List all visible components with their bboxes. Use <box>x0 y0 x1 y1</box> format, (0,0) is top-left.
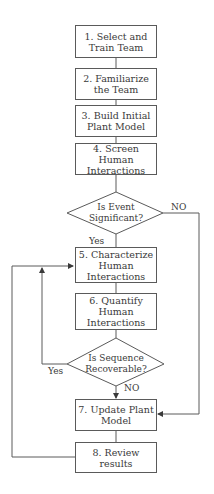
step-1-label: 1. Select and Train Team <box>78 31 154 53</box>
edge-d1-s7 <box>158 213 199 414</box>
step-8-label: 8. Review results <box>78 447 154 469</box>
edge-d2-s5 <box>42 268 67 364</box>
step-4-label: 4. Screen Human Interactions <box>78 143 154 176</box>
flowchart: 1. Select and Train Team 2. Familiarize … <box>0 0 214 494</box>
step-7-label: 7. Update Plant Model <box>78 404 154 426</box>
step-6-line-2: Human <box>87 306 145 317</box>
step-5-characterize-human-interactions: 5. Characterize Human Interactions <box>75 247 157 283</box>
step-3-build-initial-plant-model: 3. Build Initial Plant Model <box>75 105 157 137</box>
edge-s8-s5 <box>12 266 75 457</box>
step-4-screen-human-interactions: 4. Screen Human Interactions <box>75 143 157 175</box>
decision-2-text: Is Sequence Recoverable? <box>82 353 150 375</box>
decision-1-text: Is Event Significant? <box>82 202 150 224</box>
decision-2-line-2: Recoverable? <box>82 364 150 375</box>
step-6-line-3: Interactions <box>87 317 145 328</box>
step-7-update-plant-model: 7. Update Plant Model <box>75 399 157 431</box>
step-6-line-1: 6. Quantify <box>87 295 145 306</box>
step-8-review-results: 8. Review results <box>75 442 157 473</box>
decision-1-no-label: NO <box>171 202 186 212</box>
decision-2-line-1: Is Sequence <box>82 353 150 364</box>
decision-2-yes-label: Yes <box>48 366 63 376</box>
step-6-quantify-human-interactions: 6. Quantify Human Interactions <box>75 293 157 330</box>
decision-2-no-label: NO <box>124 383 139 393</box>
step-3-label: 3. Build Initial Plant Model <box>78 110 154 132</box>
decision-1-yes-label: Yes <box>89 236 104 246</box>
step-5-line-1: 5. Characterize <box>79 249 153 260</box>
decision-1-line-2: Significant? <box>82 213 150 224</box>
step-5-line-2: Human <box>79 260 153 271</box>
step-2-familiarize-team: 2. Familiarize the Team <box>75 68 157 100</box>
decision-1-line-1: Is Event <box>82 202 150 213</box>
step-1-select-train-team: 1. Select and Train Team <box>75 25 157 58</box>
step-5-line-3: Interactions <box>79 271 153 282</box>
step-2-label: 2. Familiarize the Team <box>78 73 154 95</box>
